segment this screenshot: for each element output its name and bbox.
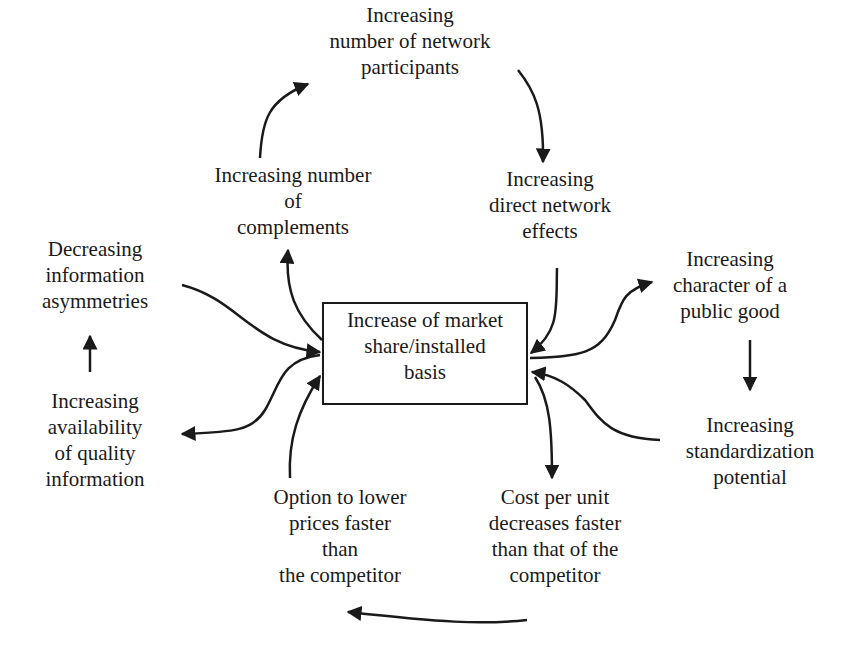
edge-cost-per-unit-to-lower-prices xyxy=(348,612,527,622)
node-line: Increasing xyxy=(480,166,620,192)
node-line: public good xyxy=(655,298,805,324)
center-node-market-share: Increase of market share/installed basis xyxy=(322,302,528,405)
node-line: of quality xyxy=(20,440,170,466)
node-public-good: Increasing character of a public good xyxy=(655,246,805,324)
node-line: availability xyxy=(20,414,170,440)
node-line: Decreasing xyxy=(20,236,170,262)
node-cost-per-unit: Cost per unit decreases faster than that… xyxy=(470,484,640,588)
node-line: asymmetries xyxy=(20,288,170,314)
node-line: basis xyxy=(324,359,526,385)
node-line: Option to lower xyxy=(250,484,430,510)
node-line: prices faster xyxy=(250,510,430,536)
node-lower-prices: Option to lower prices faster than the c… xyxy=(250,484,430,588)
node-complements: Increasing number of complements xyxy=(188,162,398,240)
node-line: Increasing xyxy=(20,388,170,414)
edge-network-participants-to-direct-network-effects xyxy=(518,70,543,162)
node-line: share/installed xyxy=(324,333,526,359)
edge-market-share-to-public-good xyxy=(530,282,652,358)
node-line: than that of the xyxy=(470,536,640,562)
edge-complements-to-network-participants xyxy=(260,84,308,158)
node-line: Increasing xyxy=(670,412,830,438)
node-line: Cost per unit xyxy=(470,484,640,510)
node-line: complements xyxy=(188,214,398,240)
node-line: information xyxy=(20,466,170,492)
node-line: potential xyxy=(670,464,830,490)
edge-market-share-to-quality-information xyxy=(182,355,320,434)
edge-lower-prices-to-market-share xyxy=(290,376,320,478)
node-line: Increasing xyxy=(290,2,530,28)
node-network-participants: Increasing number of network participant… xyxy=(290,2,530,80)
node-line: Increasing xyxy=(655,246,805,272)
edge-info-asymmetries-to-market-share xyxy=(182,285,320,352)
node-quality-information: Increasing availability of quality infor… xyxy=(20,388,170,492)
edge-market-share-to-cost-per-unit xyxy=(535,377,552,478)
node-line: character of a xyxy=(655,272,805,298)
node-line: standardization xyxy=(670,438,830,464)
node-line: the competitor xyxy=(250,562,430,588)
node-line: Increasing number xyxy=(188,162,398,188)
edge-market-share-to-complements xyxy=(287,250,322,340)
node-line: competitor xyxy=(470,562,640,588)
node-line: direct network xyxy=(480,192,620,218)
node-standardization: Increasing standardization potential xyxy=(670,412,830,490)
node-direct-network-effects: Increasing direct network effects xyxy=(480,166,620,244)
node-line: Increase of market xyxy=(324,307,526,333)
node-line: decreases faster xyxy=(470,510,640,536)
node-line: participants xyxy=(290,54,530,80)
node-info-asymmetries: Decreasing information asymmetries xyxy=(20,236,170,314)
node-line: information xyxy=(20,262,170,288)
node-line: than xyxy=(250,536,430,562)
edge-direct-network-effects-to-market-share xyxy=(531,268,557,353)
node-line: of xyxy=(188,188,398,214)
node-line: effects xyxy=(480,218,620,244)
node-line: number of network xyxy=(290,28,530,54)
